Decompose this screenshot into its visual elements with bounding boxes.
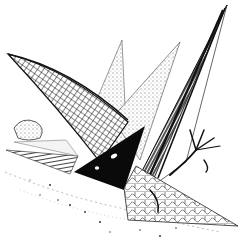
illustration-canvas: Pen-and-ink illustration of angular sail… — [0, 0, 247, 249]
ink-illustration — [0, 0, 247, 249]
eye-dot-left — [95, 166, 99, 170]
ribbed-blade — [6, 140, 78, 174]
scaled-lower-wing — [124, 166, 238, 226]
